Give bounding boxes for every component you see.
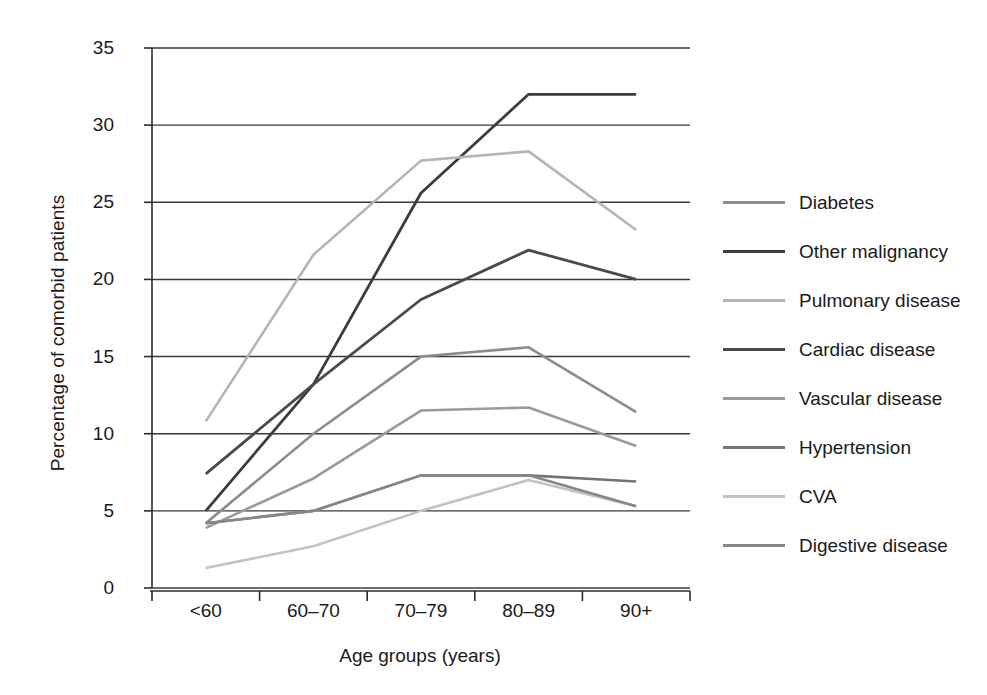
y-tick-label: 25 <box>54 191 114 213</box>
x-axis-title: Age groups (years) <box>150 645 690 667</box>
y-axis-tick-labels: 05101520253035 <box>52 0 114 695</box>
y-tick-label: 15 <box>54 346 114 368</box>
y-tick-label: 10 <box>54 423 114 445</box>
series-line-cva <box>206 480 636 568</box>
legend-item-label: Pulmonary disease <box>799 290 961 312</box>
legend-swatch-line-icon <box>723 544 785 547</box>
legend-item[interactable]: Hypertension <box>723 423 961 472</box>
y-tick-label: 20 <box>54 268 114 290</box>
series-line-cardiac-disease <box>206 250 636 474</box>
series-line-other-malignancy <box>206 94 636 511</box>
legend-item[interactable]: CVA <box>723 472 961 521</box>
legend-item[interactable]: Vascular disease <box>723 374 961 423</box>
legend-item-label: CVA <box>799 486 837 508</box>
chart-figure: Percentage of comorbid patients 05101520… <box>0 0 987 695</box>
legend-item-label: Cardiac disease <box>799 339 935 361</box>
x-tick-label: <60 <box>146 600 266 622</box>
legend-swatch-line-icon <box>723 397 785 400</box>
x-tick-label: 60–70 <box>253 600 373 622</box>
legend-item[interactable]: Pulmonary disease <box>723 276 961 325</box>
legend-swatch-line-icon <box>723 250 785 253</box>
legend-item-label: Other malignancy <box>799 241 948 263</box>
legend-item[interactable]: Diabetes <box>723 178 961 227</box>
x-tick-label: 90+ <box>576 600 696 622</box>
x-tick-label: 80–89 <box>469 600 589 622</box>
legend-item-label: Diabetes <box>799 192 874 214</box>
chart-legend: DiabetesOther malignancyPulmonary diseas… <box>723 178 961 570</box>
legend-swatch-line-icon <box>723 299 785 302</box>
legend-item[interactable]: Other malignancy <box>723 227 961 276</box>
legend-item[interactable]: Cardiac disease <box>723 325 961 374</box>
legend-item-label: Vascular disease <box>799 388 942 410</box>
legend-item-label: Hypertension <box>799 437 911 459</box>
legend-item-label: Digestive disease <box>799 535 948 557</box>
y-tick-label: 35 <box>54 37 114 59</box>
legend-swatch-line-icon <box>723 348 785 351</box>
legend-swatch-line-icon <box>723 495 785 498</box>
y-tick-label: 0 <box>54 577 114 599</box>
legend-swatch-line-icon <box>723 201 785 204</box>
legend-item[interactable]: Digestive disease <box>723 521 961 570</box>
y-tick-label: 5 <box>54 500 114 522</box>
y-tick-label: 30 <box>54 114 114 136</box>
x-tick-label: 70–79 <box>361 600 481 622</box>
legend-swatch-line-icon <box>723 446 785 449</box>
